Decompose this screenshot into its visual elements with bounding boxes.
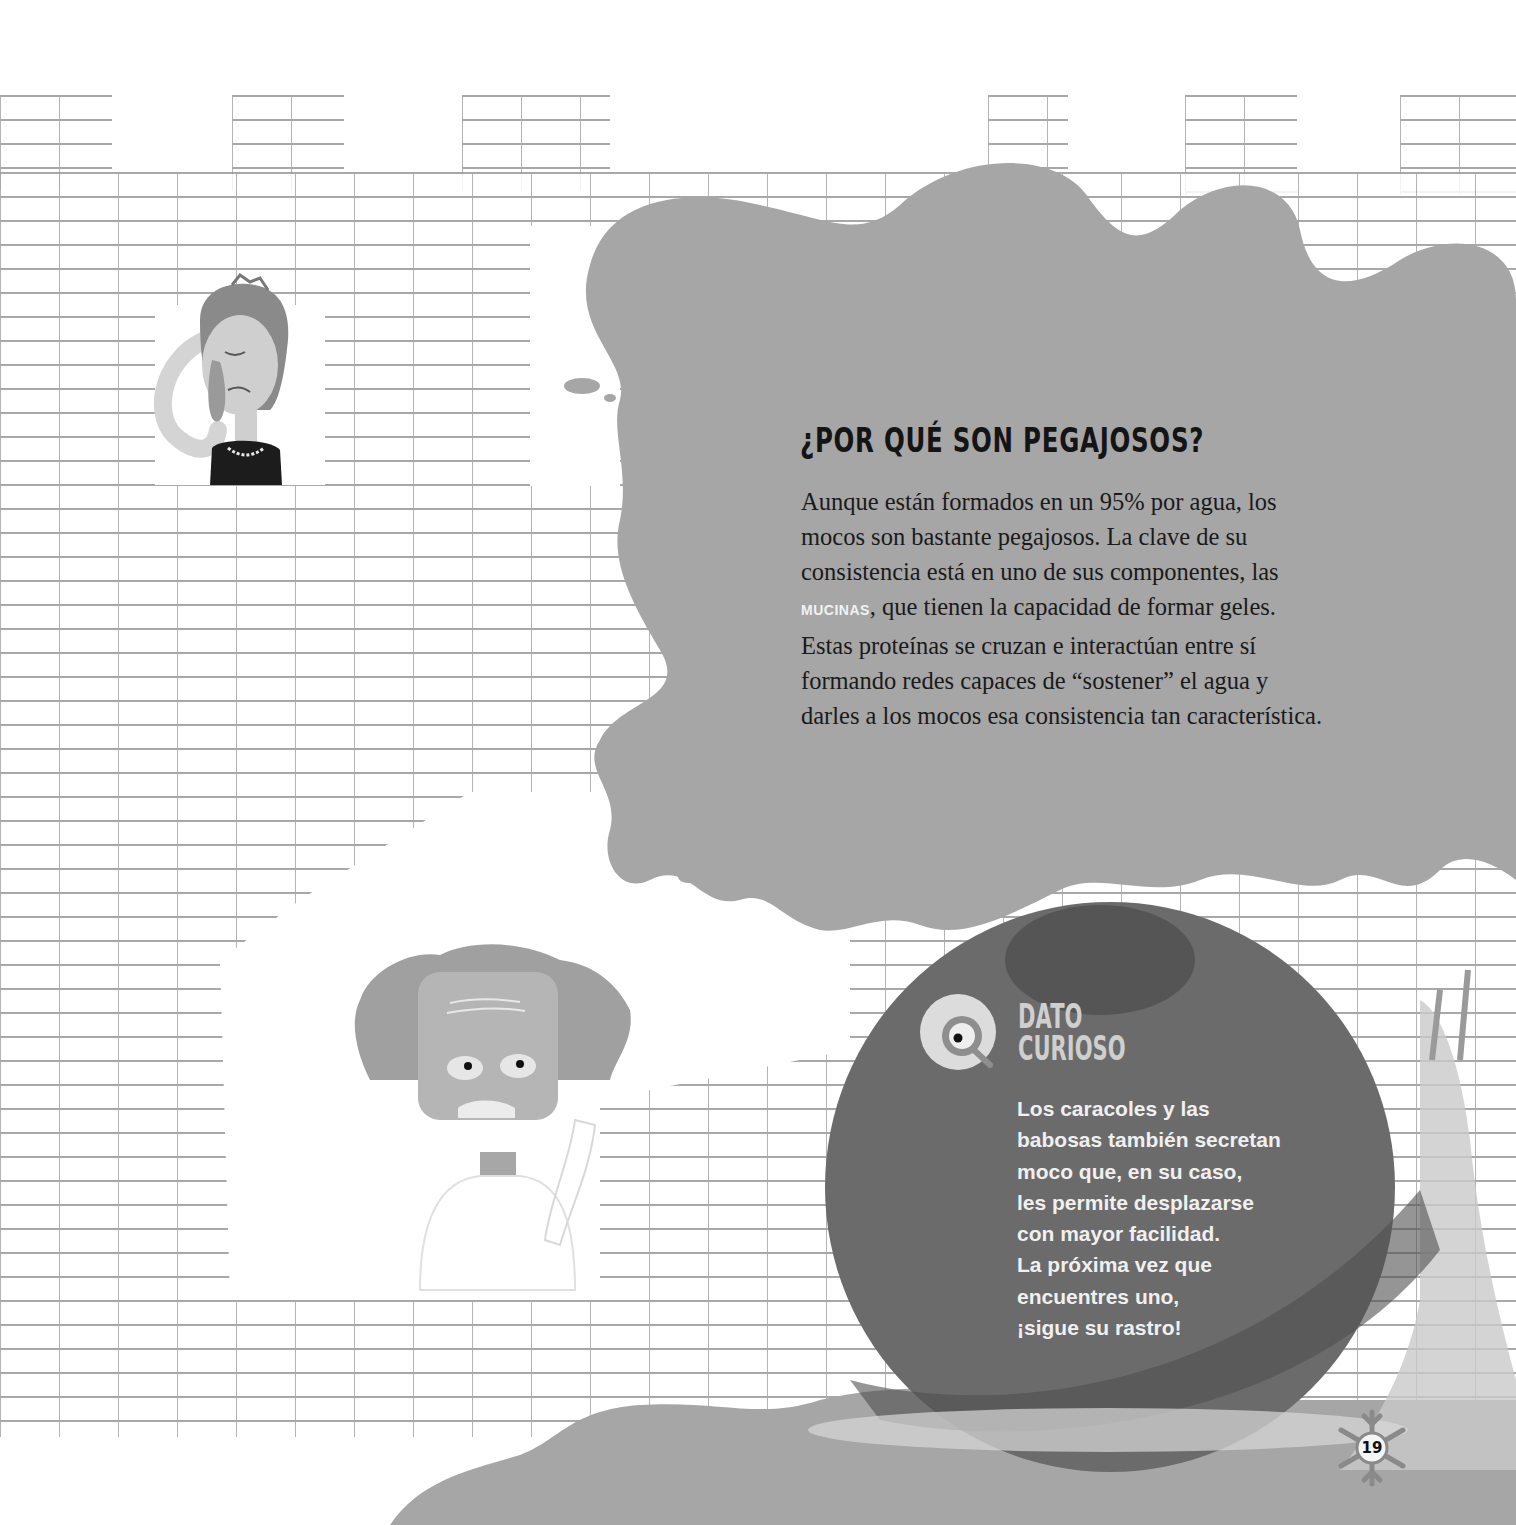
- paragraph-line: formando redes capaces de “sostener” el …: [801, 663, 1441, 698]
- dato-line: La próxima vez que: [1017, 1249, 1357, 1280]
- dato-curioso-text: Los caracoles y las babosas también secr…: [1017, 1093, 1357, 1343]
- page-number: 19: [1357, 1433, 1387, 1463]
- paragraph-line: Estas proteínas se cruzan e interactúan …: [801, 628, 1441, 663]
- section-heading: ¿POR QUÉ SON PEGAJOSOS?: [800, 420, 1204, 460]
- paragraph-line: MUCINAS, que tienen la capacidad de form…: [801, 589, 1441, 628]
- paragraph-line: darles a los mocos esa consistencia tan …: [801, 698, 1441, 733]
- paragraph-line: Aunque están formados en un 95% por agua…: [801, 484, 1441, 519]
- dato-line: con mayor facilidad.: [1017, 1218, 1357, 1249]
- dato-line: les permite desplazarse: [1017, 1187, 1357, 1218]
- dato-line: moco que, en su caso,: [1017, 1156, 1357, 1187]
- dato-curioso-title: DATO CURIOSO: [1018, 1000, 1126, 1064]
- paragraph-line: mocos son bastante pegajosos. La clave d…: [801, 519, 1441, 554]
- paragraph-line-rest: , que tienen la capacidad de formar gele…: [870, 593, 1276, 620]
- dato-line: Los caracoles y las: [1017, 1093, 1357, 1124]
- dato-line: ¡sigue su rastro!: [1017, 1312, 1357, 1343]
- paragraph-line: consistencia está en uno de sus componen…: [801, 554, 1441, 589]
- dato-line: babosas también secretan: [1017, 1124, 1357, 1155]
- dato-title-line: CURIOSO: [1018, 1032, 1126, 1064]
- body-paragraph: Aunque están formados en un 95% por agua…: [801, 484, 1441, 733]
- highlighted-keyword: MUCINAS: [801, 602, 870, 618]
- dato-line: encuentres uno,: [1017, 1281, 1357, 1312]
